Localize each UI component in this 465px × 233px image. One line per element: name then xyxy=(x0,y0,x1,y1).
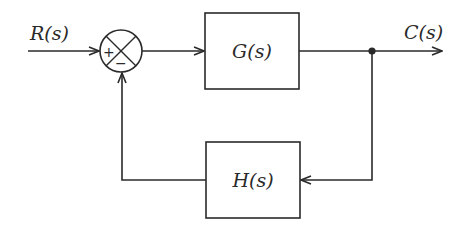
minus-sign: − xyxy=(115,55,127,71)
forward-block-label: G(s) xyxy=(232,40,272,62)
summing-junction: + − xyxy=(100,30,142,72)
plus-sign: + xyxy=(103,44,115,60)
feedback-block-label: H(s) xyxy=(231,169,273,191)
forward-block: G(s) xyxy=(205,13,299,89)
block-diagram: R(s) + − G(s) C(s) H(s) xyxy=(0,0,465,233)
output-label: C(s) xyxy=(404,21,443,43)
input-signal: R(s) xyxy=(28,22,99,51)
input-label: R(s) xyxy=(29,22,69,44)
feedback-block: H(s) xyxy=(206,142,300,218)
feedback-path-in xyxy=(301,51,372,180)
output-signal: C(s) xyxy=(299,21,443,55)
feedback-path-out xyxy=(122,73,206,180)
